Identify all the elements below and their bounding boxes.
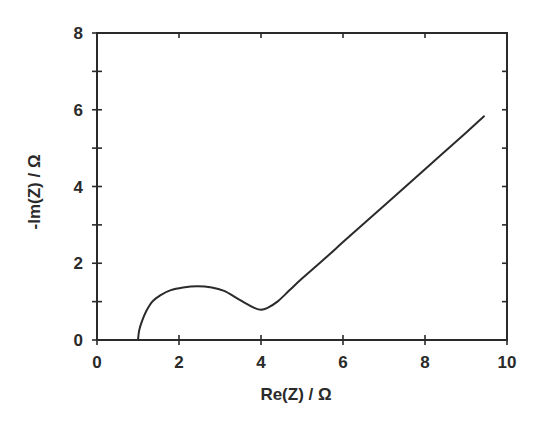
plot-frame — [97, 33, 507, 340]
axis-ticks — [92, 33, 507, 345]
y-tick-label: 6 — [74, 101, 83, 120]
x-tick-label: 6 — [338, 353, 347, 372]
y-tick-label: 2 — [74, 254, 83, 273]
y-tick-label: 0 — [74, 331, 83, 350]
x-tick-label: 10 — [498, 353, 517, 372]
x-tick-label: 4 — [256, 353, 266, 372]
y-axis-label: -Im(Z) / Ω — [25, 154, 44, 229]
x-tick-label: 2 — [174, 353, 183, 372]
x-tick-label: 8 — [420, 353, 429, 372]
nyquist-chart: 024681002468 Re(Z) / Ω -Im(Z) / Ω — [0, 0, 539, 421]
impedance-curve — [138, 116, 484, 340]
axis-tick-labels: 024681002468 — [74, 24, 517, 372]
x-axis-label: Re(Z) / Ω — [260, 385, 331, 404]
y-tick-label: 4 — [74, 178, 84, 197]
y-tick-label: 8 — [74, 24, 83, 43]
x-tick-label: 0 — [92, 353, 101, 372]
